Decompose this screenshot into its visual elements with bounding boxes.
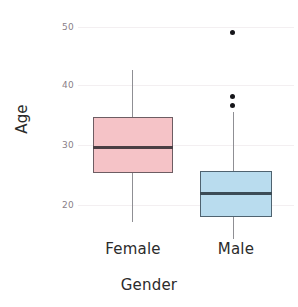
x-tick-label-female: Female [83, 240, 183, 258]
median-line-male [200, 192, 272, 195]
y-tick-label-40: 40 [40, 80, 74, 90]
y-axis-title: Age [13, 89, 31, 149]
outlier-point-male-49 [230, 30, 235, 35]
y-tick-label-50: 50 [40, 22, 74, 32]
y-tick-label-30: 30 [40, 140, 74, 150]
box-plot-figure: Age 50 40 30 20 Female Male Gender [0, 0, 298, 307]
x-tick-label-male: Male [196, 240, 276, 258]
y-tick-label-20: 20 [40, 200, 74, 210]
gridline-50 [78, 27, 294, 28]
outlier-point-male-37 [230, 103, 235, 108]
outlier-point-male-38 [230, 94, 235, 99]
box-body-female [93, 117, 173, 173]
whisker-upper-male [233, 112, 234, 171]
whisker-upper-female [132, 70, 133, 117]
y-axis-tick-labels: 50 40 30 20 [40, 0, 74, 307]
whisker-lower-male [233, 217, 234, 239]
median-line-female [93, 146, 173, 149]
gridline-40 [78, 85, 294, 86]
x-axis-title: Gender [0, 276, 298, 294]
whisker-lower-female [132, 173, 133, 222]
